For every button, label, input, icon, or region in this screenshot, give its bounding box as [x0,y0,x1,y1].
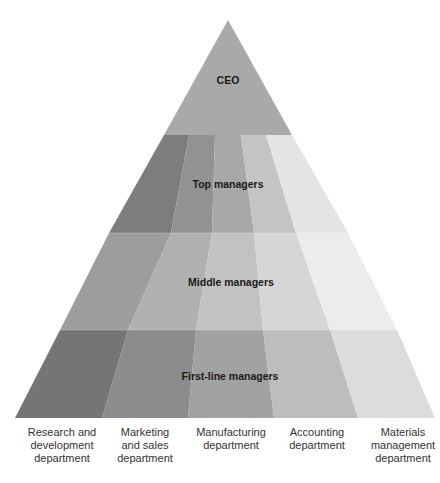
dept-label-line: Accounting [272,426,362,439]
dept-label-line: development [17,439,107,452]
dept-label-line: department [272,439,362,452]
dept-manufacturing: Manufacturing department [186,426,276,452]
first-line-managers-label: First-line managers [182,370,279,382]
dept-label-line: department [17,452,107,465]
dept-label-line: Materials [358,426,440,439]
dept-label-line: department [100,452,190,465]
dept-label-line: Manufacturing [186,426,276,439]
middle-managers-label: Middle managers [188,276,274,288]
dept-label-line: department [358,452,440,465]
dept-accounting: Accounting department [272,426,362,452]
dept-label-line: management [358,439,440,452]
top-managers-label: Top managers [193,178,264,190]
dept-research-development: Research and development department [17,426,107,465]
department-labels: Research and development department Mark… [0,426,435,483]
dept-materials-management: Materials management department [358,426,440,465]
dept-label-line: Research and [17,426,107,439]
ceo-label: CEO [217,74,240,86]
dept-label-line: and sales [100,439,190,452]
dept-label-line: Marketing [100,426,190,439]
dept-label-line: department [186,439,276,452]
dept-marketing-sales: Marketing and sales department [100,426,190,465]
